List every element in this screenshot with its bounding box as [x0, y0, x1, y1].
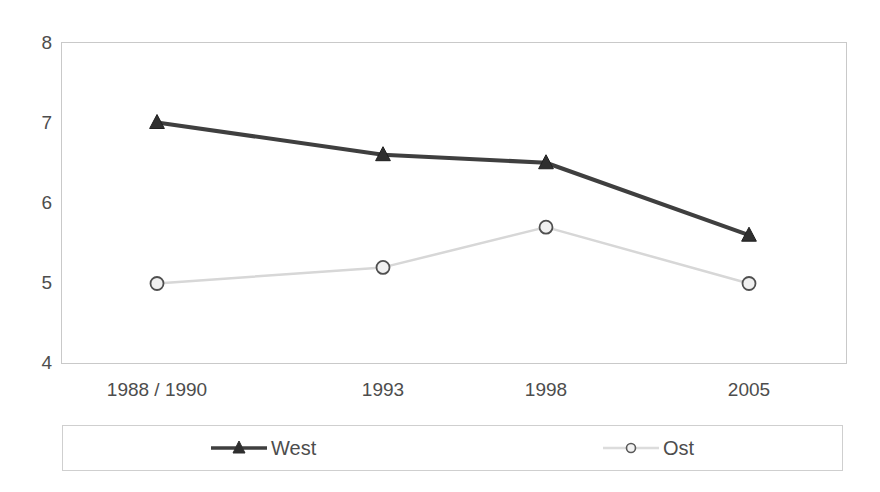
y-axis-tick-labels: 8 7 6 5 4 — [0, 0, 52, 492]
x-tick-label-4: 2005 — [728, 379, 770, 401]
data-point-ost — [743, 277, 756, 290]
y-tick-label-5: 5 — [4, 273, 52, 292]
y-tick-label-8: 8 — [4, 33, 52, 52]
legend-entry-west: West — [211, 438, 316, 458]
y-tick-label-6: 6 — [4, 193, 52, 212]
line-chart: 8 7 6 5 4 1988 / 1990 1993 1998 2005 Wes… — [0, 0, 880, 492]
series-line-west — [157, 123, 749, 236]
legend-label-ost: Ost — [663, 438, 694, 458]
data-point-ost — [377, 261, 390, 274]
series-markers-ost — [151, 221, 756, 290]
legend-label-west: West — [271, 438, 316, 458]
x-axis-tick-labels: 1988 / 1990 1993 1998 2005 — [0, 379, 880, 407]
legend-entry-ost: Ost — [603, 438, 694, 458]
data-point-ost — [151, 277, 164, 290]
x-tick-label-3: 1998 — [525, 379, 567, 401]
x-tick-label-1: 1988 / 1990 — [107, 379, 207, 401]
chart-legend: West Ost — [62, 425, 843, 471]
triangle-marker-icon — [211, 438, 267, 458]
circle-marker-icon — [603, 438, 659, 458]
x-tick-label-2: 1993 — [362, 379, 404, 401]
plot-area — [61, 42, 847, 364]
y-tick-label-7: 7 — [4, 113, 52, 132]
data-point-ost — [540, 221, 553, 234]
y-tick-label-4: 4 — [4, 353, 52, 372]
series-line-ost — [157, 227, 749, 283]
